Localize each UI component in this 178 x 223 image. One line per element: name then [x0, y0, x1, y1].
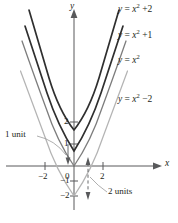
x-tick-label-2: 2 — [100, 172, 105, 181]
annotation-two-units: 2 units — [108, 187, 132, 196]
x-axis-label: x — [165, 159, 169, 169]
y-axis — [71, 9, 78, 210]
curve-label-x2-plus-2: y = x2 +2 — [118, 5, 152, 15]
curve-label-lhs: y — [118, 94, 122, 104]
two-units-shift-arrows — [86, 157, 91, 200]
curve-label-exponent: 2 — [137, 92, 140, 99]
curve-label-exponent: 2 — [137, 28, 140, 35]
curve-label-x2-minus-2: y = x2 −2 — [118, 95, 152, 105]
curve-label-constant: 2 — [148, 94, 153, 104]
curve-label-equals: = — [125, 55, 130, 65]
y-axis-label: y — [70, 2, 74, 12]
curve-label-x2: y = x2 — [118, 56, 140, 66]
curve-label-lhs: y — [118, 30, 122, 40]
x-tick-label-neg2: −2 — [38, 172, 48, 181]
parabola-shift-figure: y = x2 +2 y = x2 +1 y = x2 y = x2 −2 y x… — [0, 0, 178, 223]
curve-label-constant: 2 — [148, 4, 153, 14]
curve-label-lhs: y — [118, 55, 122, 65]
curve-label-equals: = — [125, 30, 130, 40]
x-axis — [6, 163, 162, 170]
y-tick-label-neg1: −1 — [60, 176, 70, 185]
y-tick-label-1: 1 — [64, 139, 69, 148]
curve-label-equals: = — [125, 4, 130, 14]
y-tick-label-neg2: −2 — [60, 191, 70, 200]
curve-label-exponent: 2 — [137, 53, 140, 60]
curve-label-lhs: y — [118, 4, 122, 14]
curve-label-exponent: 2 — [137, 2, 140, 9]
curve-label-equals: = — [125, 94, 130, 104]
annotation-one-unit: 1 unit — [5, 130, 26, 139]
curve-label-constant: 1 — [148, 30, 153, 40]
curve-label-x2-plus-1: y = x2 +1 — [118, 31, 152, 41]
y-tick-label-2: 2 — [64, 117, 69, 126]
